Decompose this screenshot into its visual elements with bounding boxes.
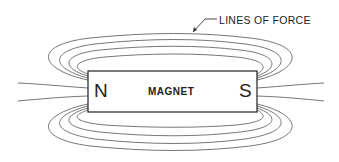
south-pole-label: S (239, 80, 252, 102)
callout-label: LINES OF FORCE (219, 14, 311, 26)
north-pole-label: N (94, 80, 108, 102)
magnet-label: MAGNET (148, 86, 194, 97)
